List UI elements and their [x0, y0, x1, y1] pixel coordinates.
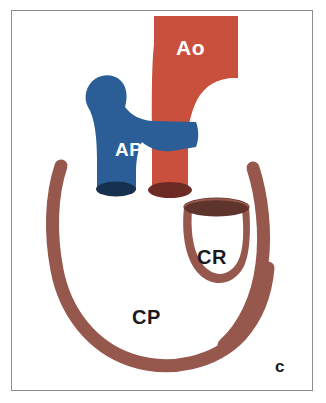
- coronary-right-lumen-ellipse: [184, 198, 250, 217]
- anatomical-figure-panel: Ao AP CR CP c: [0, 0, 326, 403]
- label-aorta: Ao: [176, 36, 205, 60]
- vessel-diagram-canvas: [0, 0, 326, 403]
- label-coronary-posterior: CP: [132, 306, 161, 329]
- aorta-lumen-ellipse: [148, 182, 192, 198]
- label-pulmonary-artery: AP: [115, 139, 142, 161]
- pulmonary-artery-lumen-ellipse: [96, 182, 136, 197]
- panel-letter: c: [275, 357, 285, 377]
- label-coronary-right: CR: [197, 246, 227, 269]
